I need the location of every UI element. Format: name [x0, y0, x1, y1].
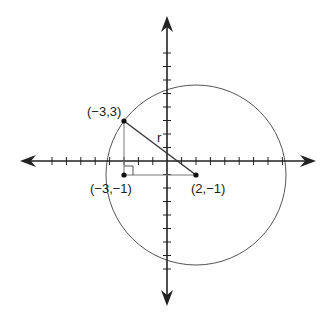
- point-neg3-neg1: [121, 172, 126, 177]
- point-neg3-3: [121, 118, 126, 123]
- label-point-2-neg1: (2,−1): [191, 181, 225, 196]
- x-axis: [20, 155, 316, 167]
- label-radius: r: [157, 130, 162, 145]
- coordinate-diagram: (−3,3) (−3,−1) (2,−1) r: [0, 0, 331, 321]
- point-2-neg1: [193, 172, 198, 177]
- label-point-neg3-neg1: (−3,−1): [90, 181, 132, 196]
- label-point-neg3-3: (−3,3): [87, 104, 121, 119]
